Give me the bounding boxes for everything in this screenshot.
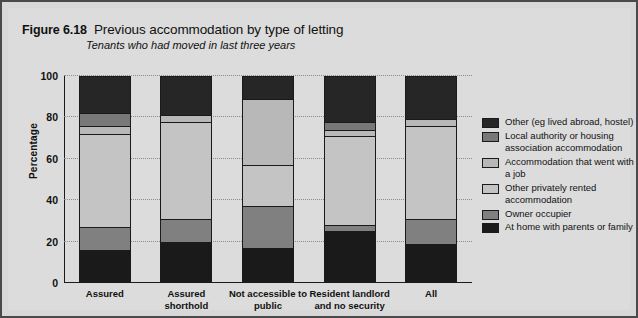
bar-segment	[80, 126, 130, 134]
bar-column	[405, 76, 457, 283]
y-tick-label: 20	[46, 236, 58, 248]
legend-label: Owner occupier	[505, 208, 572, 221]
bar-segment	[243, 76, 293, 99]
bar-segment	[161, 242, 211, 283]
legend: Other (eg lived abroad, hostel)Local aut…	[482, 116, 636, 235]
legend-item: Other privately rented accommodation	[482, 182, 636, 207]
x-axis-category-label: Assured	[64, 288, 146, 300]
y-tick-label: 60	[46, 153, 58, 165]
y-tick-label: 80	[46, 111, 58, 123]
legend-label: Other (eg lived abroad, hostel)	[505, 116, 633, 129]
bar-segment	[243, 248, 293, 283]
legend-label: Local authority or housing association a…	[505, 130, 636, 155]
bar-segment	[406, 76, 456, 119]
bar-segment	[243, 165, 293, 206]
legend-swatch	[482, 184, 499, 194]
bar-segment	[161, 115, 211, 121]
figure-inner: Figure 6.18Previous accommodation by typ…	[8, 8, 630, 310]
x-axis-category-label: Resident landlord and no security	[309, 288, 391, 311]
bar-segment	[325, 225, 375, 231]
y-tick-label: 100	[40, 70, 58, 82]
legend-label: At home with parents or family	[505, 221, 633, 234]
bar-segment	[80, 113, 130, 125]
bar-column	[242, 76, 294, 283]
bar-segment	[161, 122, 211, 219]
legend-swatch	[482, 223, 499, 233]
bar-segment	[325, 136, 375, 225]
legend-item: Owner occupier	[482, 208, 636, 221]
bar-segment	[80, 76, 130, 113]
x-axis-category-label: Not accessible to public	[227, 288, 309, 311]
y-axis-title: Percentage	[28, 123, 39, 179]
figure-title-row: Figure 6.18Previous accommodation by typ…	[22, 20, 343, 38]
y-tick-label: 0	[52, 277, 58, 289]
legend-swatch	[482, 132, 499, 142]
y-tick-label: 40	[46, 194, 58, 206]
bar-column	[79, 76, 131, 283]
bar-segment	[406, 126, 456, 219]
bar-segment	[325, 231, 375, 283]
bar-segment	[406, 119, 456, 125]
bar-segment	[80, 227, 130, 250]
figure-subtitle: Tenants who had moved in last three year…	[86, 39, 295, 51]
bar-segment	[325, 76, 375, 122]
bar-segment	[80, 250, 130, 283]
figure-number: Figure 6.18	[22, 23, 87, 37]
bar-segment	[325, 122, 375, 130]
legend-item: At home with parents or family	[482, 221, 636, 234]
x-axis-category-label: Assured shorthold	[146, 288, 228, 311]
x-axis-category-label: All	[390, 288, 472, 300]
bar-column	[160, 76, 212, 283]
bar-segment	[325, 130, 375, 136]
y-axis-line	[64, 76, 65, 283]
figure-panel: Figure 6.18Previous accommodation by typ…	[0, 0, 638, 318]
bar-segment	[406, 244, 456, 283]
legend-item: Other (eg lived abroad, hostel)	[482, 116, 636, 129]
legend-label: Other privately rented accommodation	[505, 182, 636, 207]
legend-swatch	[482, 158, 499, 168]
bar-segment	[161, 76, 211, 115]
legend-item: Local authority or housing association a…	[482, 130, 636, 155]
bar-segment	[161, 219, 211, 242]
page-title: Previous accommodation by type of lettin…	[94, 22, 344, 37]
plot-area: 020406080100 AssuredAssured shortholdNot…	[64, 76, 472, 283]
bar-segment	[406, 219, 456, 244]
legend-label: Accommodation that went with a job	[505, 156, 636, 181]
bar-segment	[243, 206, 293, 247]
bar-column	[324, 76, 376, 283]
bar-segment	[243, 99, 293, 165]
legend-swatch	[482, 210, 499, 220]
legend-item: Accommodation that went with a job	[482, 156, 636, 181]
bar-segment	[80, 134, 130, 227]
legend-swatch	[482, 118, 499, 128]
